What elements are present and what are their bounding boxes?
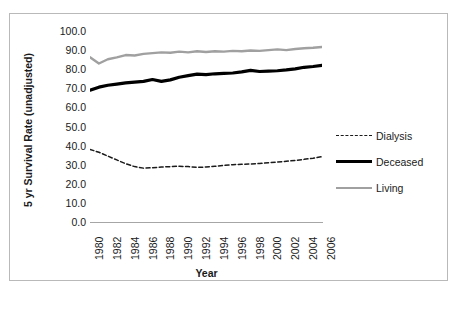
y-tick-label: 10.0	[38, 197, 86, 209]
legend-label-deceased: Deceased	[376, 156, 423, 168]
series-line-deceased	[90, 65, 322, 90]
y-tick-label: 70.0	[38, 82, 86, 94]
series-line-living	[90, 47, 322, 63]
legend-item-dialysis: Dialysis	[336, 123, 436, 149]
x-tick-label: 2004	[308, 237, 319, 260]
x-tick-label: 1986	[148, 237, 159, 260]
y-tick-label: 50.0	[38, 121, 86, 133]
x-tick-label: 1982	[112, 237, 123, 260]
y-tick-label: 20.0	[38, 178, 86, 190]
legend-swatch-deceased-icon	[336, 156, 372, 168]
x-tick-label: 1988	[165, 237, 176, 260]
x-axis-title: Year	[90, 267, 323, 279]
x-tick-label: 2000	[272, 237, 283, 260]
x-axis-tick-labels: 1980198219841986198819901992199419961998…	[90, 226, 323, 266]
x-tick-label: 1984	[130, 237, 141, 260]
y-axis-tick-labels: 100.090.080.070.060.050.040.030.020.010.…	[38, 24, 86, 224]
x-tick-label: 1996	[237, 237, 248, 260]
plot-area	[90, 31, 322, 222]
x-tick-label: 2006	[326, 237, 337, 260]
legend-item-living: Living	[336, 175, 436, 201]
y-tick-label: 90.0	[38, 44, 86, 56]
x-tick-label: 1980	[94, 237, 105, 260]
x-tick-label: 1990	[183, 237, 194, 260]
y-tick-label: 40.0	[38, 140, 86, 152]
x-tick-label: 2002	[290, 237, 301, 260]
x-axis-line	[90, 222, 323, 223]
y-tick-label: 0.0	[38, 216, 86, 228]
series-line-dialysis	[90, 149, 322, 168]
x-tick-label: 1994	[219, 237, 230, 260]
y-axis-title: 5 yr Survival Rate (unadjusted)	[22, 30, 36, 230]
y-tick-label: 100.0	[38, 25, 86, 37]
y-tick-label: 80.0	[38, 63, 86, 75]
legend-item-deceased: Deceased	[336, 149, 436, 175]
legend-label-dialysis: Dialysis	[376, 130, 412, 142]
y-tick-label: 60.0	[38, 101, 86, 113]
series-lines	[90, 31, 322, 222]
legend-swatch-living-icon	[336, 182, 372, 194]
chart-legend: Dialysis Deceased Living	[336, 123, 436, 201]
y-tick-label: 30.0	[38, 159, 86, 171]
x-tick-label: 1998	[255, 237, 266, 260]
x-tick-label: 1992	[201, 237, 212, 260]
legend-swatch-dialysis-icon	[336, 130, 372, 142]
legend-label-living: Living	[376, 182, 403, 194]
